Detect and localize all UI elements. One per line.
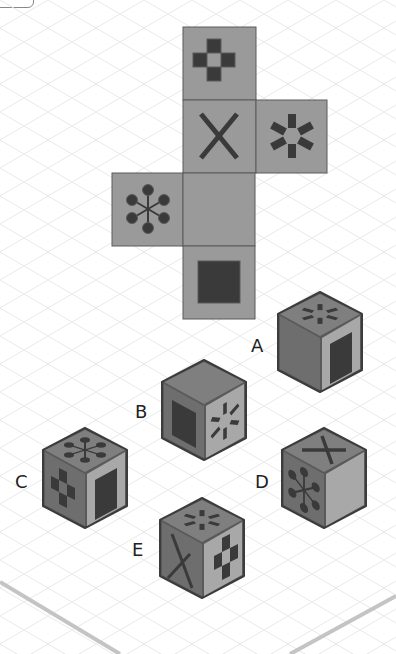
net-face-x <box>183 100 256 173</box>
option-label-d: D <box>255 471 269 492</box>
cube-option-b[interactable] <box>162 360 246 460</box>
cube-option-e[interactable] <box>160 498 244 598</box>
cube-option-c[interactable] <box>43 428 127 528</box>
black-square-icon <box>198 261 240 303</box>
cube-option-d[interactable] <box>282 428 366 528</box>
puzzle-canvas: A B C <box>0 0 396 654</box>
cube-option-a[interactable] <box>278 292 362 392</box>
net-face-square <box>183 246 255 319</box>
net-face-snowflake <box>112 173 183 246</box>
net-face-cross <box>183 27 256 100</box>
option-label-b: B <box>135 401 147 422</box>
net-face-burst <box>256 100 327 173</box>
option-label-c: C <box>15 471 28 492</box>
option-label-a: A <box>251 335 264 356</box>
net-face-blank <box>183 173 255 246</box>
option-label-e: E <box>132 539 143 560</box>
